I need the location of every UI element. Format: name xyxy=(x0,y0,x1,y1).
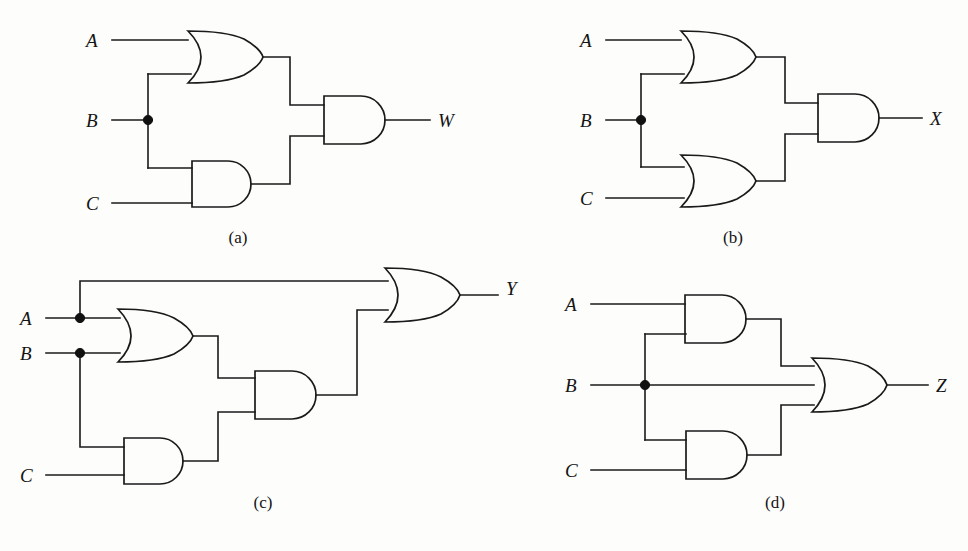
panel-a: A B C W (a) xyxy=(84,30,456,247)
label-output-y: Y xyxy=(506,278,519,299)
and-gate-mid xyxy=(255,371,316,419)
label-input-c: C xyxy=(20,465,33,486)
wire-a-bypass-top xyxy=(80,281,388,318)
panel-d: A B C Z (d) xyxy=(563,294,947,512)
or-gate-ab xyxy=(118,309,193,362)
and-gate-bc xyxy=(686,431,747,479)
or-gate-ab xyxy=(188,31,263,83)
or-gate-out xyxy=(812,358,887,412)
label-input-b: B xyxy=(565,375,577,396)
wire-and-ab-to-or xyxy=(746,319,814,366)
and-gate-ab xyxy=(685,295,746,343)
wire-and-mid-to-or-out xyxy=(316,310,388,395)
or-gate-out xyxy=(385,268,460,322)
and-gate-bc xyxy=(124,438,183,484)
label-output-z: Z xyxy=(936,375,947,396)
junction-dot-a xyxy=(75,313,84,322)
panel-c: A B C Y (c) xyxy=(18,268,519,512)
wire-and-bc-to-or xyxy=(747,405,814,455)
label-input-b: B xyxy=(86,110,98,131)
or-gate-ab xyxy=(681,31,756,83)
or-gate-bc xyxy=(681,155,756,207)
label-input-c: C xyxy=(86,193,99,214)
wire-or-to-and-out xyxy=(263,57,324,105)
circuit-diagram-canvas: A B C W (a) A B C X xyxy=(0,0,968,551)
junction-dot-b xyxy=(75,348,84,357)
junction-dot-b xyxy=(636,115,645,124)
label-output-x: X xyxy=(929,108,943,129)
junction-dot-b xyxy=(640,380,649,389)
and-gate-bc xyxy=(192,161,251,207)
wire-or-bottom-to-and xyxy=(756,134,818,181)
label-output-w: W xyxy=(438,110,456,131)
caption-panel-b: (b) xyxy=(723,228,743,247)
wire-or-top-to-and xyxy=(756,57,818,103)
panel-b: A B C X (b) xyxy=(578,30,943,247)
caption-panel-d: (d) xyxy=(765,493,785,512)
and-gate-out xyxy=(818,94,879,142)
label-input-c: C xyxy=(580,188,593,209)
and-gate-out xyxy=(324,96,385,144)
label-input-c: C xyxy=(565,460,578,481)
label-input-a: A xyxy=(84,30,98,51)
caption-panel-c: (c) xyxy=(254,493,273,512)
wire-or-to-and-mid xyxy=(193,336,255,378)
label-input-a: A xyxy=(563,294,577,315)
label-input-a: A xyxy=(578,30,592,51)
label-input-a: A xyxy=(18,308,32,329)
wire-andbc-to-and-mid xyxy=(183,412,255,461)
label-input-b: B xyxy=(20,343,32,364)
junction-dot-b xyxy=(143,115,152,124)
figure-sheet: A B C W (a) A B C X xyxy=(0,0,968,551)
caption-panel-a: (a) xyxy=(229,228,248,247)
wire-b-to-and-bc xyxy=(80,353,124,447)
label-input-b: B xyxy=(580,110,592,131)
wire-and-to-and-out xyxy=(251,136,324,184)
